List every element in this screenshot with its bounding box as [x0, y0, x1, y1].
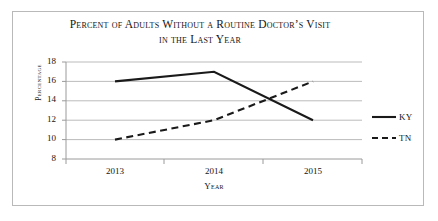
- x-tick-label-2015: 2015: [283, 166, 343, 176]
- legend-label-ky[interactable]: KY: [399, 112, 412, 122]
- x-tick-label-2013: 2013: [85, 166, 145, 176]
- series-line-ky: [115, 72, 313, 121]
- chart-figure: Percent of Adults Without a Routine Doct…: [0, 0, 438, 221]
- y-tick-label-8: 8: [34, 153, 56, 163]
- y-tick-label-10: 10: [34, 133, 56, 143]
- legend-label-tn[interactable]: TN: [399, 133, 411, 143]
- x-axis-ticks: [66, 159, 362, 164]
- axes: [66, 62, 362, 159]
- gridlines: [66, 62, 362, 140]
- series-line-tn: [115, 81, 313, 139]
- y-tick-label-18: 18: [34, 56, 56, 66]
- y-axis-ticks: [62, 62, 66, 159]
- y-tick-label-12: 12: [34, 114, 56, 124]
- y-tick-label-16: 16: [34, 75, 56, 85]
- x-tick-label-2014: 2014: [184, 166, 244, 176]
- x-axis-title: Year: [66, 181, 362, 191]
- y-tick-label-14: 14: [34, 94, 56, 104]
